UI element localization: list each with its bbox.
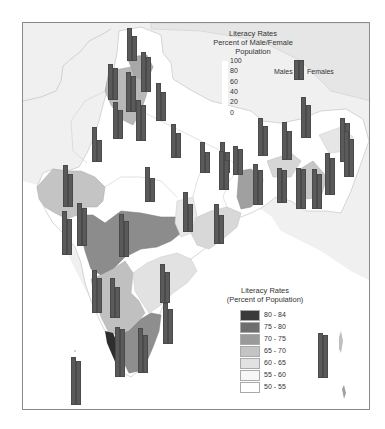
legend-range-label: 50 - 55 <box>264 383 286 390</box>
female-literacy-bar <box>168 309 173 344</box>
choropleth-legend-line-1: Literacy Rates <box>220 286 310 295</box>
legend-range-label: 70 - 75 <box>264 335 286 342</box>
legend-swatch <box>240 346 260 357</box>
female-literacy-bar <box>224 160 229 190</box>
legend-row: 80 - 84 <box>240 310 310 322</box>
legend-row: 70 - 75 <box>240 334 310 346</box>
tick-80: 80 <box>230 67 238 74</box>
female-literacy-bar <box>238 149 243 175</box>
tick-20: 20 <box>230 98 238 105</box>
scale-bar <box>222 61 228 113</box>
female-literacy-bar <box>263 126 268 156</box>
females-label: Females <box>307 68 334 75</box>
legend-swatch <box>240 334 260 345</box>
female-literacy-bar <box>141 105 146 141</box>
female-literacy-bar <box>143 335 148 373</box>
legend-range-label: 65 - 70 <box>264 347 286 354</box>
legend-range-label: 80 - 84 <box>264 311 286 318</box>
legend-range-label: 55 - 60 <box>264 371 286 378</box>
female-literacy-bar <box>161 92 166 121</box>
female-literacy-bar <box>323 335 328 378</box>
legend-swatch <box>240 358 260 369</box>
female-literacy-bar <box>205 152 210 173</box>
tick-40: 40 <box>230 88 238 95</box>
female-literacy-bar <box>118 110 123 139</box>
female-literacy-bar <box>176 133 181 158</box>
males-label: Males <box>274 68 293 75</box>
female-literacy-bar <box>219 215 224 244</box>
legend-row: 60 - 65 <box>240 358 310 370</box>
bar-legend-line-2: Percent of Male/Female <box>198 38 308 47</box>
legend-swatch <box>240 322 260 333</box>
bar-height-scale: 100 80 60 40 20 0 <box>222 59 246 119</box>
legend-row: 50 - 55 <box>240 382 310 394</box>
legend-swatch <box>240 310 260 321</box>
female-literacy-bar <box>301 169 306 209</box>
female-literacy-bar <box>97 140 102 162</box>
tick-0: 0 <box>230 109 234 116</box>
female-literacy-bar <box>330 158 335 195</box>
female-literacy-bar <box>258 170 263 205</box>
female-literacy-bar <box>124 221 129 257</box>
female-literacy-bar <box>68 174 73 207</box>
female-literacy-bar <box>317 174 322 209</box>
female-literacy-bar <box>188 204 193 232</box>
female-literacy-bar <box>287 131 292 160</box>
tick-60: 60 <box>230 78 238 85</box>
legend-range-label: 60 - 65 <box>264 359 286 366</box>
legend-swatch <box>240 382 260 393</box>
bar-pairs-layer <box>0 0 385 429</box>
legend-row: 65 - 70 <box>240 346 310 358</box>
female-literacy-bar <box>113 68 118 100</box>
female-literacy-bar <box>82 208 87 246</box>
female-bar-swatch <box>299 60 304 80</box>
female-literacy-bar <box>146 57 151 92</box>
female-literacy-bar <box>349 139 354 177</box>
choropleth-legend-line-2: (Percent of Population) <box>220 295 310 304</box>
choropleth-legend: Literacy Rates (Percent of Population) 8… <box>220 286 310 304</box>
female-literacy-bar <box>306 105 311 138</box>
female-literacy-bar <box>115 287 120 318</box>
legend-range-label: 75 - 80 <box>264 323 286 330</box>
female-literacy-bar <box>150 178 155 202</box>
female-literacy-bar <box>282 170 287 203</box>
female-literacy-bar <box>97 278 102 313</box>
legend-swatch <box>240 370 260 381</box>
bar-legend-title: Literacy Rates Percent of Male/Female Po… <box>198 29 308 56</box>
legend-row: 75 - 80 <box>240 322 310 334</box>
female-literacy-bar <box>165 272 170 303</box>
bar-legend-line-3: Population <box>198 47 308 56</box>
tick-100: 100 <box>230 57 242 64</box>
female-literacy-bar <box>67 219 72 255</box>
legend-row: 55 - 60 <box>240 370 310 382</box>
bar-legend-line-1: Literacy Rates <box>198 29 308 38</box>
female-literacy-bar <box>132 36 137 61</box>
female-literacy-bar <box>76 361 81 405</box>
female-literacy-bar <box>120 329 125 377</box>
